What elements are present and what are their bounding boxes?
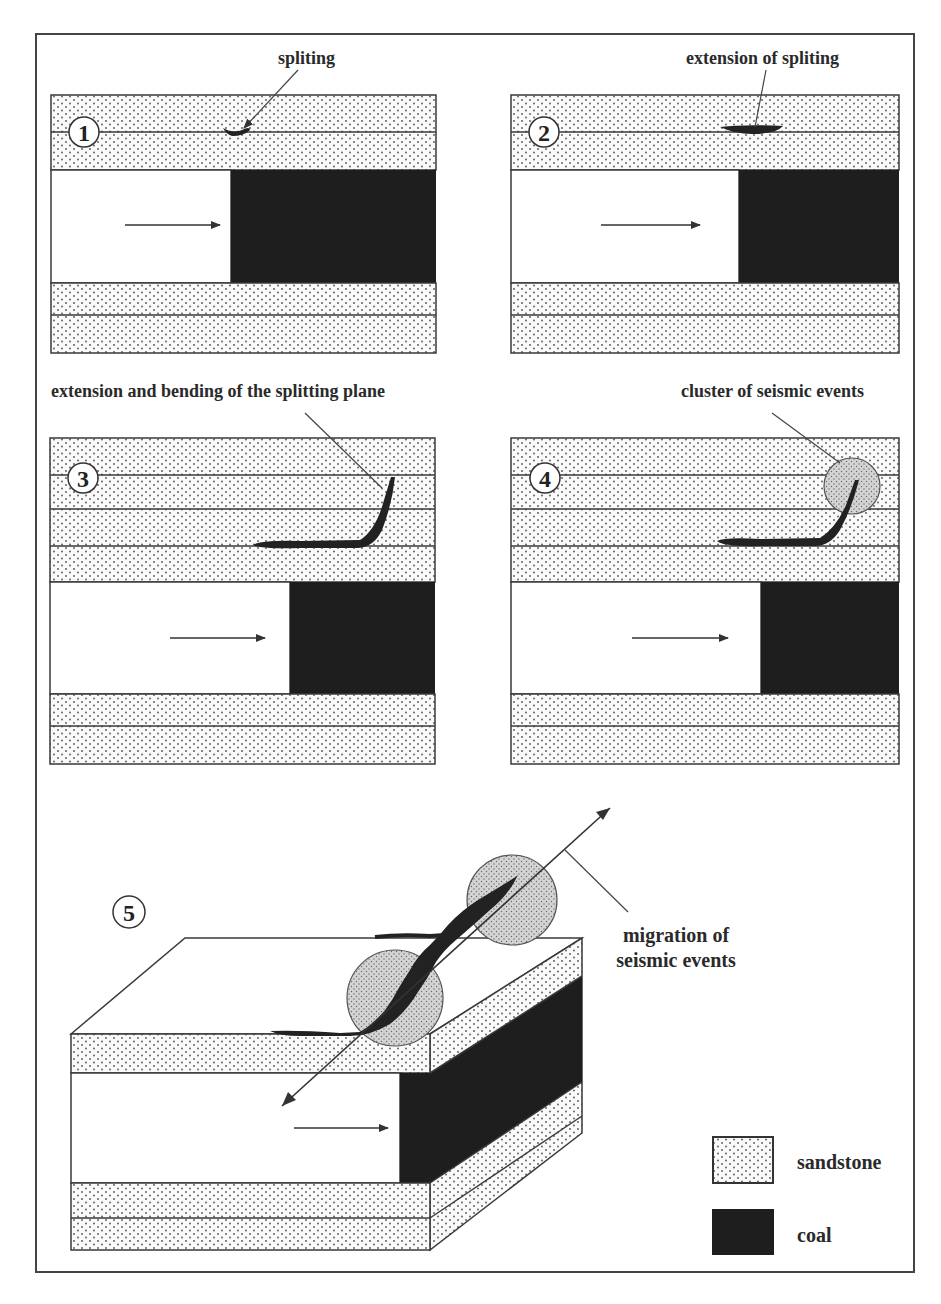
- legend-swatch-sandstone: [713, 1137, 773, 1183]
- seismic-cluster: [824, 458, 880, 514]
- legend-label-coal: coal: [797, 1224, 832, 1246]
- mined-out-area: [51, 170, 231, 283]
- panel-number: 3: [77, 466, 89, 492]
- diagram-canvas: 1 spliting 2 extension of spliting 3 ext…: [0, 0, 941, 1304]
- panel-2: 2 extension of spliting: [511, 48, 899, 353]
- mined-out-area: [511, 170, 739, 283]
- panel-label: spliting: [278, 48, 335, 68]
- panel-label-line1: migration of: [623, 924, 729, 947]
- panel-label: extension of spliting: [686, 48, 839, 68]
- legend: sandstone coal: [712, 1137, 882, 1255]
- coal-seam: [290, 582, 435, 694]
- coal-seam: [231, 170, 436, 283]
- legend-swatch-coal: [712, 1209, 774, 1255]
- panel-number: 1: [78, 120, 90, 146]
- coal-seam: [400, 1073, 430, 1183]
- coal-seam: [761, 582, 899, 694]
- panel-1: 1 spliting: [51, 48, 436, 353]
- panel-label: cluster of seismic events: [681, 381, 864, 401]
- panel-label: extension and bending of the splitting p…: [51, 381, 385, 401]
- panel-3: 3 extension and bending of the splitting…: [50, 381, 435, 764]
- legend-label-sandstone: sandstone: [797, 1151, 882, 1173]
- panel-number: 5: [123, 900, 135, 926]
- coal-seam: [739, 170, 899, 283]
- panel-label-line2: seismic events: [616, 949, 736, 971]
- panel-number: 2: [538, 120, 550, 146]
- panel-number: 4: [539, 466, 551, 492]
- panel-4: 4 cluster of seismic events: [511, 381, 899, 764]
